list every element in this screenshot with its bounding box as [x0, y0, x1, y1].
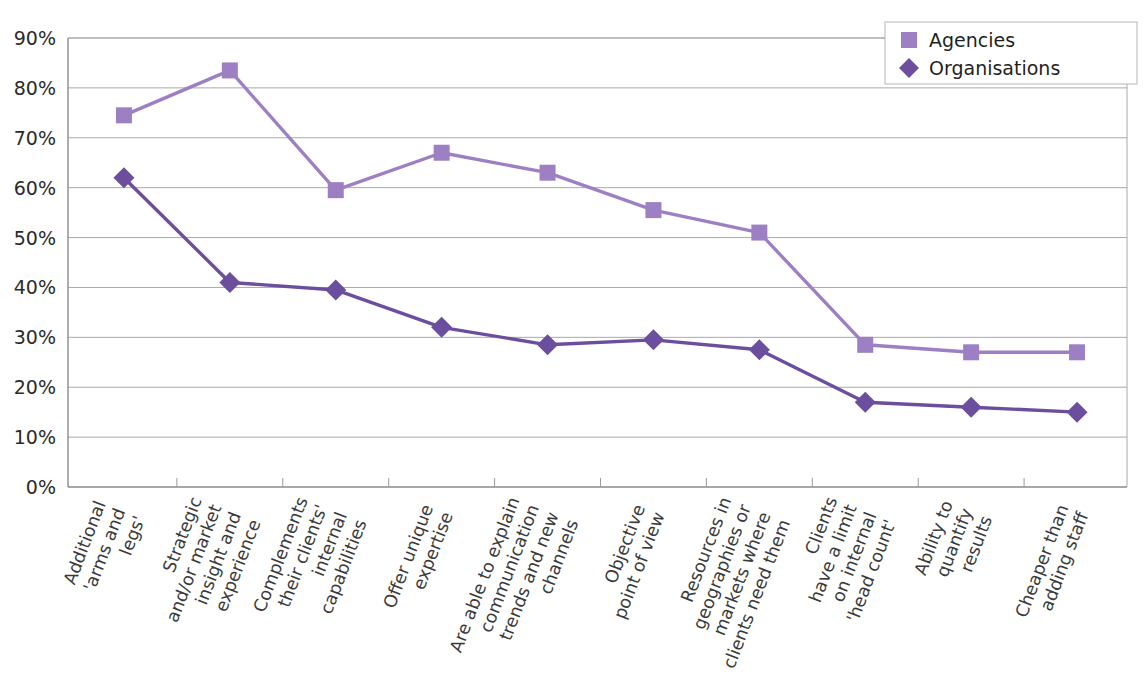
data-point-marker-square — [751, 225, 767, 241]
data-series-group — [113, 62, 1087, 422]
y-axis-tick-labels: 0%10%20%30%40%50%60%70%80%90% — [14, 27, 56, 498]
series-organisations — [113, 167, 1087, 422]
data-point-marker-diamond — [1067, 402, 1088, 423]
x-axis-category-label: Objectivepoint of view — [590, 502, 669, 622]
chart-legend: AgenciesOrganisations — [885, 22, 1137, 84]
series-agencies — [116, 62, 1085, 360]
data-point-marker-diamond — [325, 279, 346, 300]
axis-lines — [68, 38, 1127, 487]
y-axis-tick-label: 0% — [26, 476, 56, 498]
data-point-marker-diamond — [855, 392, 876, 413]
data-point-marker-square — [116, 107, 132, 123]
data-point-marker-diamond — [961, 397, 982, 418]
x-axis-category-labels: Additional'arms andlegs'Strategicand/or … — [60, 493, 1093, 677]
y-axis-tick-label: 40% — [14, 276, 56, 298]
y-axis-tick-label: 10% — [14, 426, 56, 448]
data-point-marker-square — [328, 182, 344, 198]
x-axis-category-label: Offer uniqueexpertise — [379, 502, 456, 619]
x-axis-category-label: Cheaper thanadding staff — [1011, 501, 1092, 628]
x-axis-category-label: Additional'arms andlegs' — [60, 498, 149, 602]
y-axis-tick-label: 90% — [14, 27, 56, 49]
data-point-marker-square — [645, 202, 661, 218]
x-axis-tick-marks — [177, 478, 1024, 487]
y-axis-tick-label: 60% — [14, 177, 56, 199]
data-point-marker-square — [963, 344, 979, 360]
x-axis-category-label: Ability toquantifyresults — [910, 498, 996, 593]
data-point-marker-square — [540, 165, 556, 181]
legend-label: Organisations — [929, 57, 1060, 79]
x-axis-category-label: Complementstheir clients'internalcapabil… — [249, 494, 370, 637]
data-point-marker-diamond — [643, 329, 664, 350]
data-point-marker-square — [1069, 344, 1085, 360]
x-axis-category-label: Resources ingeographies ormarkets wherec… — [660, 493, 794, 671]
legend-marker-square — [901, 32, 917, 48]
y-axis-tick-label: 80% — [14, 77, 56, 99]
series-line — [124, 70, 1077, 352]
y-axis-tick-label: 70% — [14, 127, 56, 149]
data-point-marker-square — [222, 62, 238, 78]
data-point-marker-square — [857, 337, 873, 353]
y-axis-tick-label: 50% — [14, 227, 56, 249]
data-point-marker-diamond — [431, 317, 452, 338]
y-axis-tick-label: 30% — [14, 326, 56, 348]
y-axis-tick-label: 20% — [14, 376, 56, 398]
series-line — [124, 178, 1077, 412]
x-axis-category-label: Are able to explaincommunicationtrends a… — [446, 494, 583, 678]
legend-label: Agencies — [929, 29, 1015, 51]
x-axis-category-label: Clientshave a limiton internal'head coun… — [784, 494, 900, 625]
data-point-marker-diamond — [749, 339, 770, 360]
x-axis-category-label: Strategicand/or marketinsight andexperie… — [143, 494, 265, 640]
line-chart: 0%10%20%30%40%50%60%70%80%90% Additional… — [0, 0, 1143, 694]
grid-lines — [68, 38, 1127, 437]
chart-container: 0%10%20%30%40%50%60%70%80%90% Additional… — [0, 0, 1143, 694]
data-point-marker-square — [434, 145, 450, 161]
